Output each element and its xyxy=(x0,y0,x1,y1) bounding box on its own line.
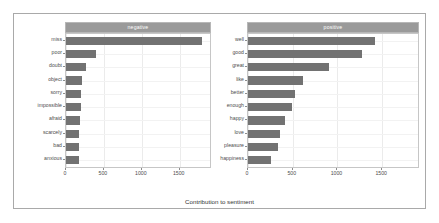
y-axis-tick-label: great xyxy=(232,64,244,69)
y-axis-tick-label: love xyxy=(234,130,244,135)
gridline-horizontal xyxy=(248,160,418,161)
facet-panel-positive: positive wellgoodgreatlikebetterenoughha… xyxy=(219,22,419,184)
gridline-horizontal xyxy=(66,160,210,161)
x-axis-tick-label: 1000 xyxy=(331,171,343,176)
x-axis-negative: 050010001500 xyxy=(65,168,211,184)
bar xyxy=(66,90,81,98)
x-axis-positive: 050010001500 xyxy=(247,168,419,184)
y-axis-tick-label: impossible xyxy=(37,104,62,109)
x-axis-tick-label: 0 xyxy=(246,171,249,176)
bar xyxy=(248,156,271,164)
x-axis-tick-label: 500 xyxy=(99,171,108,176)
facet-strip-negative: negative xyxy=(65,22,211,33)
bar xyxy=(66,76,82,84)
bar xyxy=(66,143,79,151)
y-axis-positive: wellgoodgreatlikebetterenoughhappylovepl… xyxy=(219,33,247,168)
y-axis-tick-label: better xyxy=(231,90,244,95)
gridline-horizontal xyxy=(66,81,210,82)
bar xyxy=(66,103,81,111)
bar xyxy=(248,37,375,45)
y-axis-tick-label: pleasure xyxy=(224,143,244,148)
bar xyxy=(66,63,86,71)
panel-plot-negative xyxy=(65,33,211,168)
bar xyxy=(66,50,96,58)
bar xyxy=(248,130,280,138)
bar xyxy=(66,156,79,164)
x-axis-tick-label: 500 xyxy=(287,171,296,176)
bar xyxy=(248,103,292,111)
bar xyxy=(248,63,329,71)
y-axis-tick-label: sorry xyxy=(50,90,62,95)
y-axis-tick-label: happy xyxy=(230,117,244,122)
facet-strip-positive: positive xyxy=(247,22,419,33)
facet-strip-label-negative: negative xyxy=(128,25,149,30)
y-axis-tick-label: well xyxy=(235,37,244,42)
facet-panel-negative: negative misspoordoubtobjectsorryimpossi… xyxy=(21,22,211,184)
y-axis-negative: misspoordoubtobjectsorryimpossibleafraid… xyxy=(21,33,65,168)
y-axis-tick-label: object xyxy=(48,77,62,82)
y-axis-tick-label: bad xyxy=(53,143,62,148)
chart-figure: negative misspoordoubtobjectsorryimpossi… xyxy=(13,13,426,209)
x-axis-tick-label: 1500 xyxy=(375,171,387,176)
x-axis-tick-label: 1000 xyxy=(135,171,147,176)
gridline-horizontal xyxy=(66,94,210,95)
y-axis-tick-label: happiness xyxy=(220,157,244,162)
bar xyxy=(66,116,80,124)
bar xyxy=(248,143,278,151)
gridline-horizontal xyxy=(66,120,210,121)
y-axis-tick-label: doubt xyxy=(49,64,62,69)
bar xyxy=(248,116,285,124)
y-axis-tick-label: scarcely xyxy=(43,130,62,135)
gridline-horizontal xyxy=(66,67,210,68)
y-axis-tick-label: enough xyxy=(227,104,244,109)
y-axis-tick-label: good xyxy=(232,50,244,55)
panel-plot-positive xyxy=(247,33,419,168)
plot-area: negative misspoordoubtobjectsorryimpossi… xyxy=(14,14,425,208)
y-axis-tick-label: afraid xyxy=(49,117,62,122)
y-axis-tick-label: miss xyxy=(51,37,62,42)
gridline-horizontal xyxy=(66,134,210,135)
bar xyxy=(66,37,202,45)
bar xyxy=(66,130,79,138)
x-axis-tick-label: 0 xyxy=(64,171,67,176)
gridline-horizontal xyxy=(66,147,210,148)
x-axis-tick-label: 1500 xyxy=(173,171,185,176)
y-axis-tick-label: like xyxy=(236,77,244,82)
bar xyxy=(248,76,303,84)
gridline-horizontal xyxy=(66,107,210,108)
y-axis-tick-label: poor xyxy=(52,50,62,55)
bar xyxy=(248,50,362,58)
facet-strip-label-positive: positive xyxy=(324,25,343,30)
y-axis-tick-label: anxious xyxy=(44,157,62,162)
bar xyxy=(248,90,295,98)
x-axis-title: Contribution to sentiment xyxy=(14,199,425,205)
